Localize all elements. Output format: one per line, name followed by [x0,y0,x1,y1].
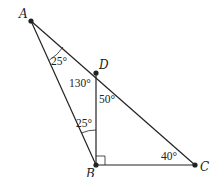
point-d [93,70,98,75]
label-a: A [18,7,28,21]
angle-label-adb: 130° [69,77,91,89]
label-b: B [85,167,95,177]
point-a [28,18,33,23]
angle-label-bdc: 50° [99,93,116,105]
segment-ab [31,21,96,165]
angle-arc-b [82,130,97,133]
label-c: C [200,160,209,174]
angle-label-a: 25° [51,55,68,67]
triangle-diagram: A D B C 25° 130° 50° 25° 40° [0,0,218,177]
angle-label-abd: 25° [76,117,93,129]
angle-label-c: 40° [161,150,178,162]
point-c [192,162,197,167]
label-d: D [98,58,109,72]
